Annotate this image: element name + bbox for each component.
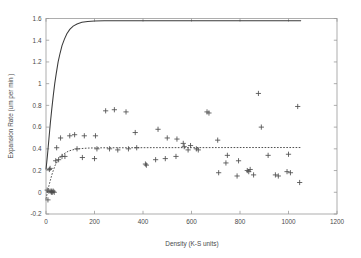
- x-tick-label: 800: [235, 218, 246, 225]
- scatter-plot: 020040060080010001200 -0.200.20.40.60.81…: [0, 0, 361, 258]
- x-tick-label: 200: [89, 218, 100, 225]
- y-tick-label: 0.6: [33, 123, 42, 130]
- x-tick-label: 1000: [281, 218, 296, 225]
- x-axis-title: Density (K-S units): [165, 240, 218, 248]
- x-tick-label: 1200: [330, 218, 345, 225]
- y-axis-title: Expansion Rate (um per min ): [7, 74, 15, 159]
- y-tick-label: 1.4: [33, 37, 42, 44]
- x-tick-label: 0: [44, 218, 48, 225]
- y-tick-label: 1: [38, 80, 42, 87]
- y-tick-label: 0.2: [33, 167, 42, 174]
- x-tick-label: 400: [138, 218, 149, 225]
- y-tick-label: 1.6: [33, 15, 42, 22]
- y-tick-label: 0: [38, 189, 42, 196]
- figure-background: [0, 0, 361, 258]
- x-tick-label: 600: [186, 218, 197, 225]
- y-tick-label: 0.8: [33, 102, 42, 109]
- y-tick-label: -0.2: [30, 210, 41, 217]
- figure-container: 020040060080010001200 -0.200.20.40.60.81…: [0, 0, 361, 258]
- y-tick-label: 0.4: [33, 145, 42, 152]
- y-tick-label: 1.2: [33, 58, 42, 65]
